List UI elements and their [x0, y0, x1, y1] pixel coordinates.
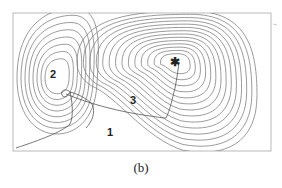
right-contour-ring: [90, 18, 247, 141]
region-label-1: 1: [107, 126, 113, 138]
left-basin-contours: [17, 8, 98, 134]
right-basin-contours: [77, 11, 257, 152]
left-contour-ring: [33, 37, 82, 111]
figure-caption: (b): [133, 160, 148, 175]
region-label-2: 2: [50, 68, 56, 80]
right-contour-ring: [103, 24, 237, 128]
left-contour-ring: [45, 59, 69, 94]
path-from-left-basin-to-region-1: [16, 90, 72, 148]
minimum-star-icon: ✱: [170, 55, 180, 69]
region-label-3: 3: [130, 94, 136, 106]
corner-tick: [273, 24, 277, 25]
left-contour-ring: [41, 52, 73, 100]
left-contour-ring: [25, 23, 90, 123]
contour-figure: 2 3 1 ✱ (b): [0, 0, 282, 188]
